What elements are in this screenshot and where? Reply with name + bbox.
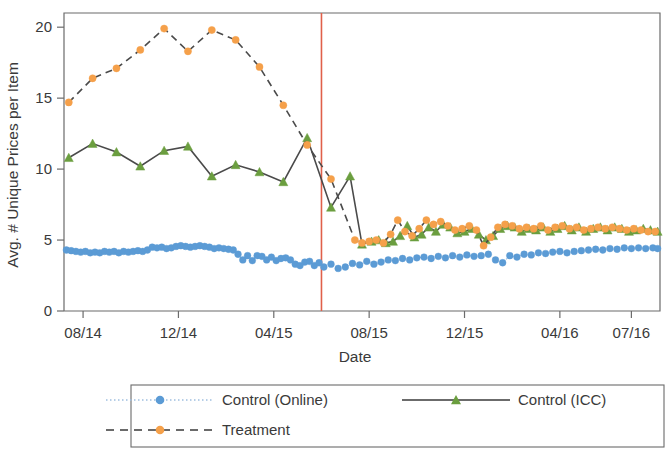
x-axis-ticks: 08/1412/1404/1508/1512/1504/1607/16 [64, 311, 650, 341]
legend-label-control-icc: Control (ICC) [518, 391, 606, 408]
series-treatment [65, 25, 659, 249]
x-tick-label: 12/15 [446, 324, 484, 341]
y-tick-label: 20 [35, 18, 52, 35]
y-tick-label: 10 [35, 160, 52, 177]
y-tick-label: 5 [44, 231, 52, 248]
x-axis-title: Date [339, 348, 372, 365]
y-axis-ticks: 05101520 [35, 18, 64, 319]
x-tick-label: 04/15 [255, 324, 293, 341]
unique-prices-time-series-chart: 05101520 08/1412/1404/1508/1512/1504/160… [0, 0, 671, 451]
y-tick-label: 15 [35, 89, 52, 106]
x-tick-label: 07/16 [613, 324, 651, 341]
x-tick-label: 12/14 [160, 324, 198, 341]
x-tick-label: 04/16 [541, 324, 579, 341]
legend-label-treatment: Treatment [222, 421, 291, 438]
x-tick-label: 08/14 [64, 324, 102, 341]
y-axis-title: Avg. # Unique Prices per Item [4, 62, 21, 268]
legend-label-control-online: Control (Online) [222, 391, 328, 408]
chart-figure: 05101520 08/1412/1404/1508/1512/1504/160… [0, 0, 671, 451]
chart-legend: Control (Online) Control (ICC) Treatment [106, 385, 664, 447]
y-tick-label: 0 [44, 302, 52, 319]
x-tick-label: 08/15 [350, 324, 388, 341]
